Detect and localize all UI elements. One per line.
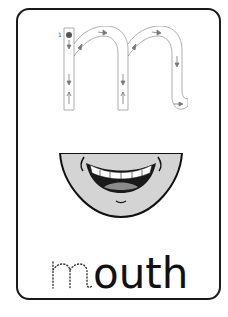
- letter-tracing-m: 1: [58, 26, 188, 112]
- dotted-letter-m: [50, 260, 92, 290]
- arrow-icons: [67, 30, 183, 106]
- word-mouth: outh: [50, 249, 188, 293]
- mouth-illustration: [58, 153, 184, 219]
- start-dot-icon: 1: [58, 31, 72, 38]
- start-number: 1: [58, 31, 62, 38]
- word-rest: outh: [93, 253, 188, 295]
